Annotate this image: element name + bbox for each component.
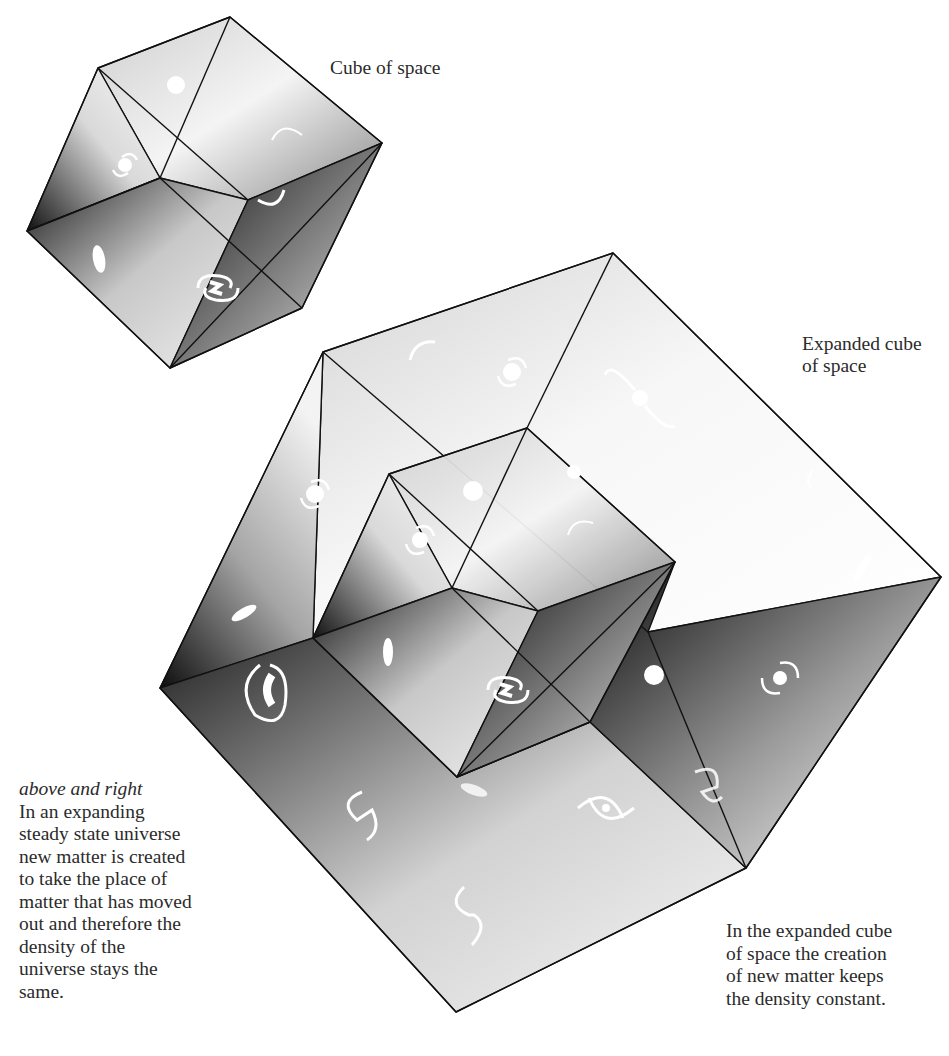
small-cube-label: Cube of space <box>330 57 440 79</box>
caption-line: In the expanded cube <box>726 920 892 943</box>
caption-line: new matter is created <box>19 846 192 869</box>
caption-line: In an expanding <box>19 801 192 824</box>
right-caption: In the expanded cube of space the creati… <box>726 920 892 1010</box>
left-caption: above and right In an expanding steady s… <box>19 778 192 1003</box>
caption-line: matter that has moved <box>19 891 192 914</box>
round-galaxy-icon <box>463 481 483 501</box>
small-cube <box>27 17 382 368</box>
elliptical-galaxy-icon <box>383 638 393 666</box>
expanded-cube-label: Expanded cube of space <box>802 333 922 377</box>
caption-line: of space the creation <box>726 943 892 966</box>
caption-line: to take the place of <box>19 868 192 891</box>
round-galaxy-icon <box>167 76 185 94</box>
caption-heading: above and right <box>19 778 192 801</box>
round-galaxy-icon <box>567 465 581 479</box>
caption-line: universe stays the <box>19 958 192 981</box>
caption-line: steady state universe <box>19 823 192 846</box>
caption-line: of new matter keeps <box>726 965 892 988</box>
expanded-cube-label-line: Expanded cube <box>802 333 922 355</box>
caption-line: out and therefore the <box>19 913 192 936</box>
caption-line: the density constant. <box>726 988 892 1011</box>
round-galaxy-icon <box>644 665 664 685</box>
caption-line: density of the <box>19 936 192 959</box>
caption-line: same. <box>19 981 192 1004</box>
expanded-cube-label-line: of space <box>802 355 922 377</box>
